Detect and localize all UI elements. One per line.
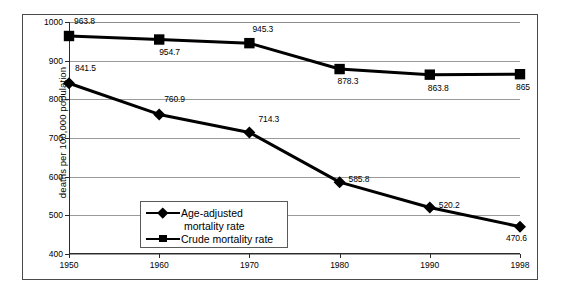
data-point-marker bbox=[153, 108, 165, 120]
data-point-marker bbox=[64, 31, 74, 41]
data-label-520.2: 520.2 bbox=[439, 200, 460, 210]
data-point-marker bbox=[244, 38, 254, 48]
x-tick-mark-1960 bbox=[159, 254, 160, 258]
mortality-rate-line-chart: deaths per 100,000 population 4005006007… bbox=[0, 0, 563, 300]
x-tick-mark-1950 bbox=[69, 254, 70, 258]
x-tick-mark-1980 bbox=[340, 254, 341, 258]
x-tick-label-1950: 1950 bbox=[60, 260, 79, 270]
data-point-marker bbox=[515, 69, 525, 79]
y-tick-label-900: 900 bbox=[49, 56, 63, 66]
x-tick-mark-1970 bbox=[249, 254, 250, 258]
data-label-470.6: 470.6 bbox=[506, 233, 527, 243]
y-tick-label-1000: 1000 bbox=[44, 17, 63, 27]
chart-frame: deaths per 100,000 population 4005006007… bbox=[22, 14, 538, 280]
series-line-2 bbox=[69, 36, 520, 75]
legend-item-age-adjusted-line2: mortality rate bbox=[146, 219, 282, 232]
chart-legend: Age-adjusted mortality rate Crude mortal… bbox=[140, 201, 288, 248]
data-label-863.8: 863.8 bbox=[428, 83, 449, 93]
y-tick-label-800: 800 bbox=[49, 94, 63, 104]
gridline-400 bbox=[69, 254, 520, 255]
data-label-945.3: 945.3 bbox=[252, 24, 273, 34]
data-point-marker bbox=[424, 202, 436, 214]
data-label-954.7: 954.7 bbox=[159, 47, 180, 57]
series-lines bbox=[69, 22, 520, 254]
data-point-marker bbox=[154, 34, 164, 44]
legend-label-age-adjusted-line2: mortality rate bbox=[146, 220, 245, 232]
y-tick-label-400: 400 bbox=[49, 249, 63, 259]
x-tick-label-1980: 1980 bbox=[330, 260, 349, 270]
data-point-marker bbox=[334, 176, 346, 188]
diamond-marker-icon bbox=[146, 207, 180, 219]
x-tick-label-1998: 1998 bbox=[511, 260, 530, 270]
x-tick-label-1970: 1970 bbox=[240, 260, 259, 270]
y-tick-label-500: 500 bbox=[49, 210, 63, 220]
data-label-585.8: 585.8 bbox=[349, 174, 370, 184]
x-tick-mark-1990 bbox=[430, 254, 431, 258]
y-tick-label-600: 600 bbox=[49, 172, 63, 182]
data-label-841.5: 841.5 bbox=[75, 63, 96, 73]
legend-label-crude: Crude mortality rate bbox=[180, 233, 273, 245]
square-marker-icon bbox=[146, 233, 180, 245]
legend-item-age-adjusted: Age-adjusted bbox=[146, 206, 282, 219]
plot-area: 4005006007008009001000 19501960197019801… bbox=[69, 22, 520, 254]
x-tick-label-1990: 1990 bbox=[420, 260, 439, 270]
data-label-760.9: 760.9 bbox=[164, 94, 185, 104]
legend-item-crude: Crude mortality rate bbox=[146, 232, 282, 245]
data-label-878.3: 878.3 bbox=[338, 76, 359, 86]
x-tick-label-1960: 1960 bbox=[150, 260, 169, 270]
data-label-865: 865 bbox=[516, 82, 530, 92]
data-label-714.3: 714.3 bbox=[258, 114, 279, 124]
y-tick-label-700: 700 bbox=[49, 133, 63, 143]
data-point-marker bbox=[243, 126, 255, 138]
data-point-marker bbox=[425, 69, 435, 79]
data-point-marker bbox=[334, 64, 344, 74]
legend-label-age-adjusted-line1: Age-adjusted bbox=[180, 207, 243, 219]
data-point-marker bbox=[514, 221, 526, 233]
x-tick-mark-1998 bbox=[520, 254, 521, 258]
data-label-963.8: 963.8 bbox=[74, 16, 95, 26]
